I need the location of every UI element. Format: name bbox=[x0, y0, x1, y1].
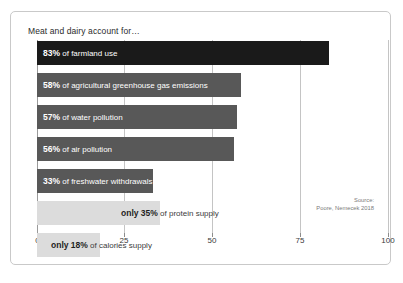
bar-row: only 35% of protein supply bbox=[37, 201, 160, 225]
source-credit: Source: Poore, Nemecek 2018 bbox=[316, 196, 374, 212]
x-tick-label-75: 75 bbox=[296, 236, 305, 245]
chart-frame: Meat and dairy account for… 0% 25 50 75 … bbox=[10, 11, 391, 265]
bar-description: of calories supply bbox=[88, 241, 152, 250]
bar-percent: 35% bbox=[141, 208, 158, 218]
bar-percent: 18% bbox=[71, 240, 88, 250]
bar-percent: 33% bbox=[43, 176, 60, 186]
bar-row: 57% of water pollution bbox=[37, 105, 237, 129]
bar-prefix: only bbox=[51, 240, 71, 250]
chart-title: Meat and dairy account for… bbox=[28, 26, 140, 36]
bar-row: only 18% of calories supply bbox=[37, 233, 100, 257]
x-tick-label-50: 50 bbox=[208, 236, 217, 245]
bar-description: of freshwater withdrawals bbox=[60, 177, 152, 186]
bar-percent: 83% bbox=[43, 48, 60, 58]
bar-row: 58% of agricultural greenhouse gas emiss… bbox=[37, 73, 241, 97]
source-citation: Poore, Nemecek 2018 bbox=[316, 204, 374, 212]
bar-value-label: 57% of water pollution bbox=[43, 105, 123, 129]
bar-description: of air pollution bbox=[60, 145, 112, 154]
bar-row: 56% of air pollution bbox=[37, 137, 234, 161]
bar-value-label: 58% of agricultural greenhouse gas emiss… bbox=[43, 73, 208, 97]
bar-description: of agricultural greenhouse gas emissions bbox=[60, 81, 208, 90]
bar-row: 33% of freshwater withdrawals bbox=[37, 169, 153, 193]
gridline-100 bbox=[388, 40, 389, 233]
source-label: Source: bbox=[316, 196, 374, 204]
bar-value-label: 33% of freshwater withdrawals bbox=[43, 169, 153, 193]
bar-prefix: only bbox=[121, 208, 141, 218]
bar-value-label: 83% of farmland use bbox=[43, 41, 117, 65]
bar-description: of farmland use bbox=[60, 49, 117, 58]
bar-value-label: 56% of air pollution bbox=[43, 137, 112, 161]
bar-value-label: only 18% of calories supply bbox=[51, 233, 152, 257]
bar-row: 83% of farmland use bbox=[37, 41, 329, 65]
bar-percent: 57% bbox=[43, 112, 60, 122]
bar-description: of protein supply bbox=[158, 209, 219, 218]
bar-description: of water pollution bbox=[60, 113, 123, 122]
gridline-75 bbox=[300, 40, 301, 233]
bar-chart-plot-area: Meat and dairy account for… 0% 25 50 75 … bbox=[11, 12, 392, 266]
x-tick-label-100: 100 bbox=[381, 236, 394, 245]
bar-value-label: only 35% of protein supply bbox=[121, 201, 219, 225]
bar-percent: 58% bbox=[43, 80, 60, 90]
bar-percent: 56% bbox=[43, 144, 60, 154]
